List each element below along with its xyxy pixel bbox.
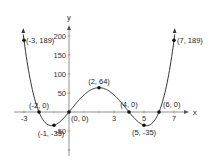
x-tick-label: 5 bbox=[142, 114, 146, 123]
x-tick-label: -3 bbox=[21, 114, 28, 123]
y-tick-label: 100 bbox=[53, 70, 66, 79]
y-tick-label: 150 bbox=[53, 51, 66, 60]
x-tick-label: 3 bbox=[112, 114, 116, 123]
x-tick-label: 7 bbox=[172, 114, 176, 123]
point-label: (6, 0) bbox=[163, 100, 181, 109]
point-label: (0, 0) bbox=[71, 114, 89, 123]
right-end-arrow-icon bbox=[173, 28, 177, 33]
data-point bbox=[97, 86, 101, 90]
x-axis-arrow-icon bbox=[184, 110, 189, 114]
point-label: (-1, -35) bbox=[38, 129, 65, 138]
data-point bbox=[127, 110, 131, 114]
data-point bbox=[142, 124, 146, 128]
point-label: (-3, 189) bbox=[26, 36, 55, 45]
y-axis-arrow-icon bbox=[67, 25, 71, 30]
data-point bbox=[172, 38, 176, 42]
data-point bbox=[52, 124, 56, 128]
left-end-arrow-icon bbox=[21, 28, 25, 33]
data-point bbox=[37, 110, 41, 114]
point-label: (-2, 0) bbox=[29, 101, 50, 110]
y-axis-label: y bbox=[67, 13, 71, 22]
point-label: (2, 64) bbox=[88, 77, 110, 86]
y-tick-label: 200 bbox=[53, 32, 66, 41]
point-label: (5, -35) bbox=[132, 128, 157, 137]
function-graph: x y -335720015010050-50 (-3, 189)(-2, 0)… bbox=[0, 0, 213, 161]
point-label: (4, 0) bbox=[120, 100, 138, 109]
curve-end-arrows bbox=[21, 28, 176, 33]
point-label: (7, 189) bbox=[177, 36, 203, 45]
y-tick-label: 50 bbox=[58, 89, 66, 98]
data-point bbox=[157, 110, 161, 114]
x-axis-label: x bbox=[193, 108, 197, 117]
